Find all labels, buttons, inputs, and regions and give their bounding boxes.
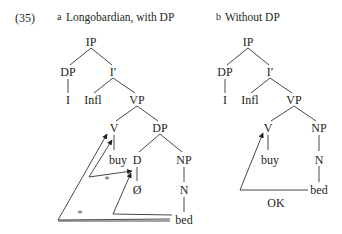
node-i-bar: I′ [110,66,117,78]
node-d: D [133,154,142,166]
node-v: V [110,122,119,134]
node-i-leaf: I [223,94,227,106]
node-ip: IP [243,36,254,48]
node-i-bar: I′ [267,66,274,78]
node-dp-spec: DP [217,66,232,78]
panel-a-title: Longobardian, with DP [66,11,174,23]
node-i-leaf: I [66,94,70,106]
grammatical-label: OK [267,197,284,209]
node-dp-obj: DP [152,122,167,134]
node-vp: VP [286,94,301,106]
node-dp-spec: DP [60,66,75,78]
ungrammatical-mark: * [105,175,110,185]
node-buy: buy [109,154,127,166]
tree-lines [0,0,342,234]
node-v: V [264,122,273,134]
node-vp: VP [129,94,144,106]
node-null-d: Ø [133,184,142,196]
panel-b-letter: b [216,11,221,23]
node-n: N [315,154,324,166]
panel-a-letter: a [57,11,61,23]
node-np: NP [176,154,191,166]
example-number: (35) [15,12,35,24]
ungrammatical-mark: * [78,209,83,219]
node-n: N [180,184,189,196]
node-bed: bed [175,214,192,226]
node-infl: Infl [84,94,101,106]
node-infl: Infl [241,94,258,106]
node-ip: IP [86,36,97,48]
panel-b-title: Without DP [225,11,280,23]
node-buy: buy [261,154,279,166]
node-bed: bed [310,184,327,196]
node-np: NP [311,122,326,134]
